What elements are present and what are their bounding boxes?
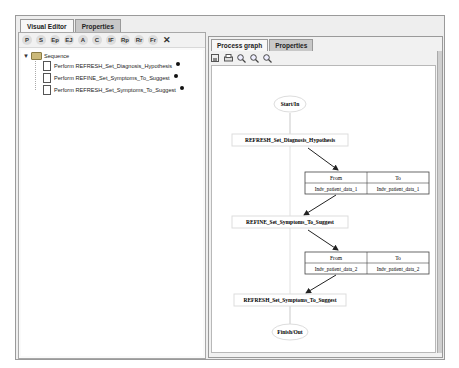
to-value: Indv_patient_data_2 <box>377 266 420 272</box>
process-graph: Start/In REFRESH_Set_Diagnosis_Hypothesi… <box>212 66 433 352</box>
edge-arrow <box>304 195 336 215</box>
zoom-out-icon[interactable] <box>250 54 258 62</box>
if-icon[interactable]: IF <box>106 35 116 45</box>
edge-arrow <box>308 230 338 250</box>
process-node-label: REFRESH_Set_Symptoms_To_Suggest <box>243 297 336 303</box>
tree-item-label: Perform REFRESH_Set_Diagnosis_Hypothesis <box>54 63 172 69</box>
fr-icon[interactable]: Fr <box>148 35 158 45</box>
tree-root-label: Sequence <box>44 53 69 59</box>
edge-arrow <box>308 148 338 170</box>
tree-item-label: Perform REFRESH_Set_Symptoms_To_Suggest <box>54 87 176 93</box>
edge-arrow <box>306 275 336 293</box>
sequence-icon[interactable]: S <box>36 35 46 45</box>
to-value: Indv_patient_data_1 <box>377 186 420 192</box>
to-header: To <box>395 175 401 181</box>
rr-icon[interactable]: Rr <box>134 35 144 45</box>
tab-process-graph[interactable]: Process graph <box>211 39 268 51</box>
visual-editor-pane: P S Ep EJ A C IF Rp Rr Fr ✕ ▼ Sequence <box>18 32 206 359</box>
graph-canvas[interactable]: Start/In REFRESH_Set_Diagnosis_Hypothesi… <box>211 65 436 353</box>
tree-item[interactable]: Perform REFINE_Set_Symptoms_To_Suggest <box>43 73 178 83</box>
document-icon <box>43 73 51 83</box>
tree-root[interactable]: ▼ Sequence <box>23 52 69 60</box>
graph-toolbar <box>211 52 271 64</box>
status-dot-icon <box>180 86 184 90</box>
perform-icon[interactable]: P <box>22 35 32 45</box>
ej-icon[interactable]: EJ <box>64 35 74 45</box>
activity-toolbar: P S Ep EJ A C IF Rp Rr Fr ✕ <box>19 33 205 48</box>
zoom-in-icon[interactable] <box>237 54 245 62</box>
tree-connector <box>35 61 36 90</box>
zoom-fit-icon[interactable] <box>263 54 271 62</box>
status-dot-icon <box>176 62 180 66</box>
print-icon[interactable] <box>224 54 232 62</box>
left-tabs: Visual Editor Properties <box>20 19 122 32</box>
folder-icon <box>31 52 42 60</box>
to-header: To <box>395 255 401 261</box>
save-icon[interactable] <box>211 54 219 62</box>
rp-icon[interactable]: Rp <box>120 35 130 45</box>
from-header: From <box>330 255 343 261</box>
process-node-label: REFRESH_Set_Diagnosis_Hypothesis <box>245 137 335 143</box>
vertical-scrollbar[interactable] <box>437 51 442 353</box>
document-icon <box>43 61 51 71</box>
from-value: Indv_patient_data_1 <box>315 186 358 192</box>
delete-icon[interactable]: ✕ <box>162 35 172 45</box>
expand-triangle-icon[interactable]: ▼ <box>23 53 29 59</box>
tab-properties-right[interactable]: Properties <box>269 39 313 51</box>
mapping-table[interactable]: From To Indv_patient_data_2 Indv_patient… <box>305 252 429 274</box>
start-label: Start/In <box>281 101 300 107</box>
tree-item-label: Perform REFINE_Set_Symptoms_To_Suggest <box>54 75 170 81</box>
status-dot-icon <box>174 74 178 78</box>
a-icon[interactable]: A <box>78 35 88 45</box>
sequence-tree: ▼ Sequence Perform REFRESH_Set_Diagnosis… <box>21 50 203 356</box>
from-header: From <box>330 175 343 181</box>
visual-editor-panel: Visual Editor Properties P S Ep EJ A C I… <box>18 16 204 357</box>
process-graph-panel: Process graph Properties <box>208 36 443 358</box>
process-node-label: REFINE_Set_Symptoms_To_Suggest <box>246 219 334 225</box>
tree-item[interactable]: Perform REFRESH_Set_Diagnosis_Hypothesis <box>43 61 180 71</box>
tab-visual-editor[interactable]: Visual Editor <box>20 19 74 32</box>
tab-properties[interactable]: Properties <box>75 19 121 32</box>
ep-icon[interactable]: Ep <box>50 35 60 45</box>
editor-window: Visual Editor Properties P S Ep EJ A C I… <box>15 15 445 360</box>
c-icon[interactable]: C <box>92 35 102 45</box>
document-icon <box>43 85 51 95</box>
from-value: Indv_patient_data_2 <box>315 266 358 272</box>
mapping-table[interactable]: From To Indv_patient_data_1 Indv_patient… <box>305 172 429 194</box>
finish-label: Finish/Out <box>277 329 303 335</box>
tree-item[interactable]: Perform REFRESH_Set_Symptoms_To_Suggest <box>43 85 184 95</box>
right-tabs: Process graph Properties <box>211 39 314 51</box>
